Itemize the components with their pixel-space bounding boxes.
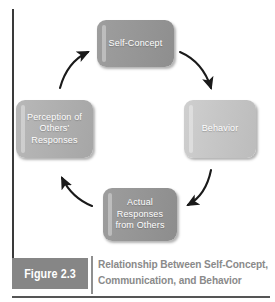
caption-line-2: Communication, and Behavior xyxy=(98,272,256,288)
node-actual-responses: Actual Responses from Others xyxy=(103,188,177,241)
node-behavior: Behavior xyxy=(184,100,256,158)
node-perception-label: Perception of Others' Responses xyxy=(16,112,93,147)
figure-container: Self-Concept Behavior Actual Responses f… xyxy=(0,0,275,302)
figure-caption-text: Relationship Between Self-Concept, Commu… xyxy=(98,256,270,288)
cycle-diagram: Self-Concept Behavior Actual Responses f… xyxy=(0,0,275,252)
node-highlight-strip xyxy=(189,105,193,153)
node-behavior-label: Behavior xyxy=(196,123,245,135)
arrow-self-concept-to-behavior xyxy=(180,52,211,88)
arrow-perception-to-self-concept xyxy=(60,52,88,88)
node-self-concept-label: Self-Concept xyxy=(103,38,169,50)
figure-number-label: Figure 2.3 xyxy=(24,267,76,281)
node-perception: Perception of Others' Responses xyxy=(16,100,93,158)
figure-caption-bar: Figure 2.3 Relationship Between Self-Con… xyxy=(0,255,275,302)
caption-underline xyxy=(12,296,270,298)
node-actual-responses-label: Actual Responses from Others xyxy=(103,197,177,232)
arrow-behavior-to-actual-responses xyxy=(188,170,211,205)
figure-number-tag: Figure 2.3 xyxy=(12,258,88,289)
arrow-actual-responses-to-perception xyxy=(62,178,92,206)
caption-divider xyxy=(91,256,93,294)
node-self-concept: Self-Concept xyxy=(97,20,174,67)
caption-line-1: Relationship Between Self-Concept, xyxy=(98,256,256,272)
